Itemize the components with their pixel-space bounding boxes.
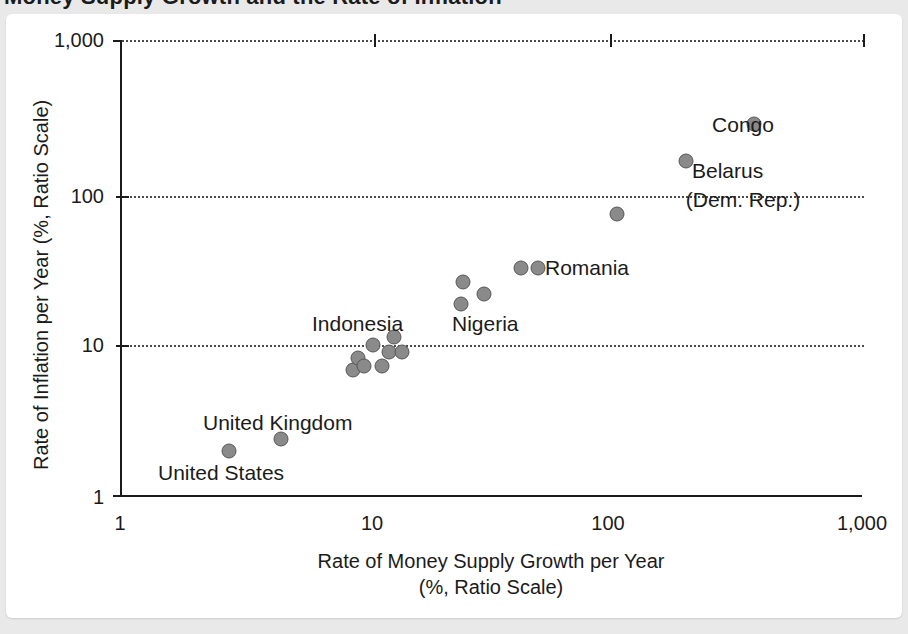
- x-tick-100: [610, 34, 612, 47]
- annotation-indonesia: Indonesia: [312, 311, 403, 336]
- gridline-10: [122, 345, 864, 347]
- data-point-romania: [530, 260, 545, 275]
- x-tick-label-100: 100: [591, 512, 624, 535]
- data-point-indonesia: [365, 337, 380, 352]
- x-tick-label-10: 10: [361, 512, 383, 535]
- y-tick-label-10: 10: [0, 334, 104, 357]
- data-point-9: [394, 345, 409, 360]
- y-tick-10: [116, 345, 129, 347]
- chart-figure: Money Supply Growth and the Rate of Infl…: [0, 0, 908, 634]
- y-tick-1: [113, 495, 122, 497]
- chart-title-strip: Money Supply Growth and the Rate of Infl…: [0, 0, 908, 14]
- data-point-12: [476, 287, 491, 302]
- annotation-congo-line2: (Dem. Rep.): [686, 187, 800, 212]
- y-tick-label-1: 1: [0, 486, 104, 509]
- y-tick-label-100: 100: [0, 185, 104, 208]
- x-axis-title-line2: (%, Ratio Scale): [120, 574, 862, 600]
- x-tick-label-1000: 1,000: [837, 512, 887, 535]
- annotation-congo-line1: Congo: [686, 112, 800, 137]
- x-tick-label-1: 1: [114, 512, 125, 535]
- y-tick-1000: [113, 40, 122, 42]
- y-axis-title: Rate of Inflation per Year (%, Ratio Sca…: [30, 100, 53, 470]
- y-tick-100: [116, 196, 129, 198]
- x-tick-10: [374, 34, 376, 47]
- data-point-4: [356, 358, 371, 373]
- x-axis-title-line1: Rate of Money Supply Growth per Year: [120, 548, 862, 574]
- data-point-6: [374, 359, 389, 374]
- annotation-romania: Romania: [545, 255, 629, 280]
- annotation-united-states: United States: [158, 460, 284, 485]
- x-axis-title: Rate of Money Supply Growth per Year (%,…: [120, 548, 862, 600]
- data-point-united-states: [221, 444, 236, 459]
- data-point-13: [513, 260, 528, 275]
- data-point-15: [609, 207, 624, 222]
- annotation-united-kingdom: United Kingdom: [203, 410, 352, 435]
- annotation-nigeria: Nigeria: [452, 311, 519, 336]
- data-point-10: [456, 274, 471, 289]
- y-tick-label-1000: 1,000: [0, 29, 104, 52]
- chart-title: Money Supply Growth and the Rate of Infl…: [4, 0, 502, 10]
- annotation-belarus: Belarus: [692, 158, 763, 183]
- x-tick-1000: [863, 34, 865, 47]
- data-point-nigeria: [454, 297, 469, 312]
- gridline-1000: [122, 40, 864, 42]
